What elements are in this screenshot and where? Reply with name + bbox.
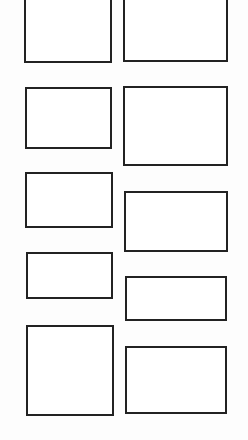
panel-right-3 <box>124 191 228 252</box>
panel-left-1 <box>24 0 112 63</box>
panel-left-3 <box>25 172 113 228</box>
panel-left-5 <box>26 325 114 416</box>
panel-right-1 <box>123 0 228 62</box>
panel-right-5 <box>125 346 227 414</box>
panel-left-4 <box>26 252 113 299</box>
layout-canvas <box>0 0 248 440</box>
panel-right-2 <box>123 86 228 166</box>
panel-right-4 <box>125 276 227 321</box>
panel-left-2 <box>25 87 112 149</box>
